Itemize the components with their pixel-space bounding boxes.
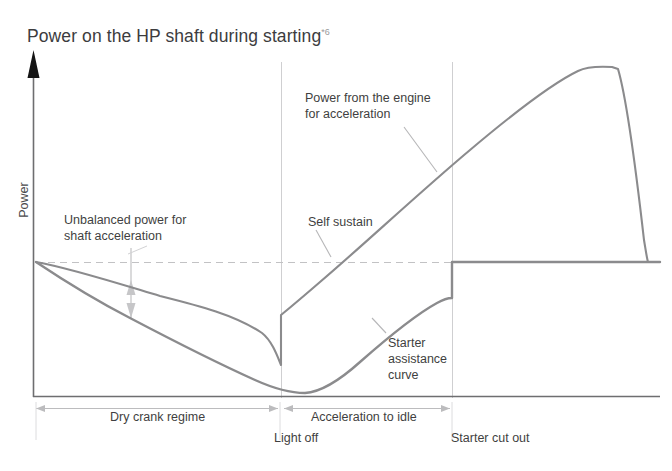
annotation-starter-assistance-curve: Starter assistance curve <box>388 335 447 383</box>
leader-line-engine <box>404 127 437 172</box>
x-event-label-starter-cut-out: Starter cut out <box>451 431 530 445</box>
y-axis-arrowhead-icon <box>28 50 40 78</box>
unbalanced-power-double-arrow <box>127 248 136 318</box>
annotation-unbalanced-power: Unbalanced power for shaft acceleration <box>64 212 186 244</box>
x-region-label-dry-crank: Dry crank regime <box>110 410 205 424</box>
series-starter-assistance-curve <box>36 262 660 393</box>
leader-line-self-sustain <box>316 230 331 257</box>
x-event-label-light-off: Light off <box>274 431 318 445</box>
annotation-self-sustain: Self sustain <box>308 214 373 230</box>
leader-line-starter-assistance <box>372 318 386 333</box>
annotation-engine-power: Power from the engine for acceleration <box>305 90 431 122</box>
x-region-label-acceleration-to-idle: Acceleration to idle <box>311 410 417 424</box>
chart-container: Power on the HP shaft during starting*6 … <box>0 0 672 471</box>
